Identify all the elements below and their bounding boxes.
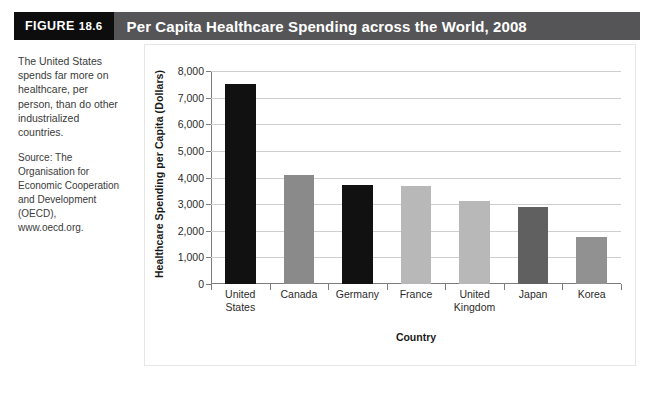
figure-body: The United States spends far more on hea…: [14, 40, 640, 372]
figure-sidebar: The United States spends far more on hea…: [14, 40, 132, 372]
bar-canada: [284, 175, 314, 284]
x-label-line: Germany: [328, 288, 387, 301]
x-label-line: Canada: [270, 288, 329, 301]
x-label-united-states: UnitedStates: [211, 288, 270, 313]
x-label-united-kingdom: UnitedKingdom: [445, 288, 504, 313]
plot-area: 01,0002,0003,0004,0005,0006,0007,0008,00…: [211, 71, 621, 284]
y-tick-label: 1,000: [178, 251, 204, 263]
bars-layer: [211, 71, 621, 284]
bar-germany: [342, 185, 372, 284]
chart-panel: Healthcare Spending per Capita (Dollars)…: [144, 44, 636, 366]
bar-united-states: [225, 84, 255, 284]
x-label-france: France: [387, 288, 446, 301]
x-label-line: Korea: [562, 288, 621, 301]
x-label-line: United: [211, 288, 270, 301]
plot-wrapper: Healthcare Spending per Capita (Dollars)…: [145, 45, 635, 365]
x-label-line: France: [387, 288, 446, 301]
y-tick-label: 0: [198, 278, 204, 290]
x-label-germany: Germany: [328, 288, 387, 301]
figure-tag-number: 18.6: [79, 20, 103, 32]
x-tick-mark: [621, 284, 622, 290]
x-label-canada: Canada: [270, 288, 329, 301]
figure-block: FIGURE 18.6 Per Capita Healthcare Spendi…: [14, 12, 640, 372]
figure-number-tag: FIGURE 18.6: [14, 12, 114, 40]
x-label-japan: Japan: [504, 288, 563, 301]
y-tick-label: 6,000: [178, 118, 204, 130]
y-tick-label: 4,000: [178, 172, 204, 184]
figure-caption: The United States spends far more on hea…: [18, 54, 122, 139]
figure-title: Per Capita Healthcare Spending across th…: [114, 12, 527, 40]
x-label-line: Japan: [504, 288, 563, 301]
y-axis-title-text: Healthcare Spending per Capita (Dollars): [153, 70, 165, 278]
y-tick-label: 2,000: [178, 225, 204, 237]
x-label-line: United: [445, 288, 504, 301]
y-axis-title: Healthcare Spending per Capita (Dollars): [151, 45, 167, 303]
x-label-line: States: [211, 301, 270, 314]
bar-japan: [518, 207, 548, 284]
bar-korea: [576, 237, 606, 284]
bar-france: [401, 186, 431, 285]
figure-source: Source: The Organisation for Economic Co…: [18, 151, 122, 235]
bar-united-kingdom: [459, 201, 489, 284]
figure-tag-word: FIGURE: [25, 19, 75, 33]
y-tick-label: 5,000: [178, 145, 204, 157]
x-label-line: Kingdom: [445, 301, 504, 314]
y-tick-label: 7,000: [178, 92, 204, 104]
x-axis-title: Country: [211, 331, 621, 343]
y-tick-label: 3,000: [178, 198, 204, 210]
x-label-korea: Korea: [562, 288, 621, 301]
y-tick-label: 8,000: [178, 65, 204, 77]
figure-header-bar: FIGURE 18.6 Per Capita Healthcare Spendi…: [14, 12, 640, 40]
x-axis-category-labels: UnitedStatesCanadaGermanyFranceUnitedKin…: [211, 288, 621, 326]
